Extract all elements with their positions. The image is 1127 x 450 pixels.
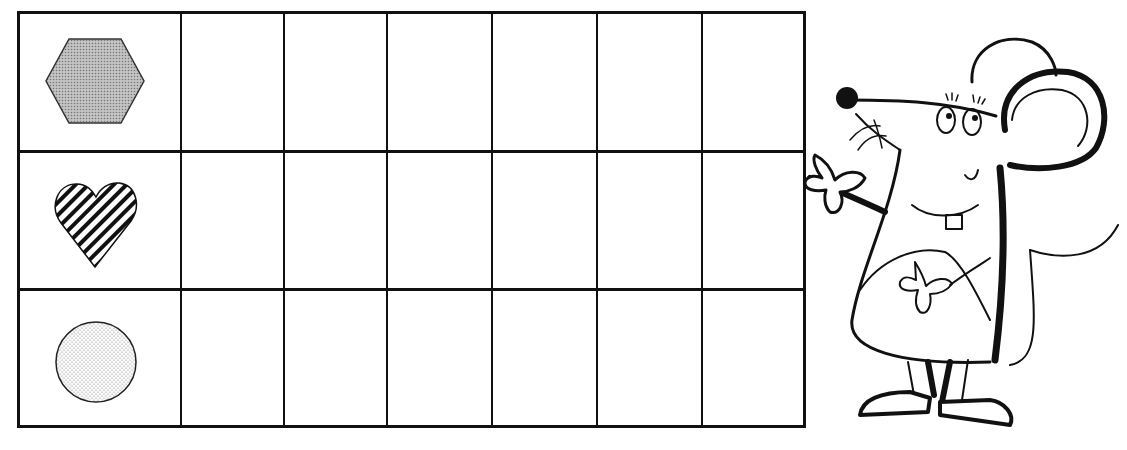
- hexagon-icon: [43, 36, 147, 128]
- grid-divider: [596, 14, 598, 425]
- circle-icon: [53, 319, 139, 405]
- grid-divider: [180, 14, 182, 425]
- grid-divider: [386, 14, 388, 425]
- grid-divider: [701, 14, 703, 425]
- grid-divider: [491, 14, 493, 425]
- mouse-illustration: [800, 20, 1127, 450]
- counting-grid: [17, 11, 806, 428]
- grid-divider: [283, 14, 285, 425]
- grid-divider: [20, 150, 803, 153]
- grid-divider: [20, 288, 803, 291]
- heart-icon: [53, 179, 139, 271]
